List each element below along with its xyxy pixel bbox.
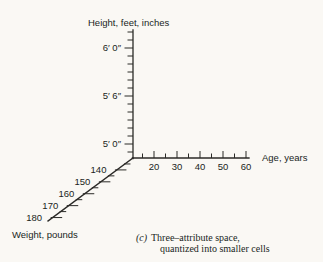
height-axis-title: Height, feet, inches bbox=[88, 17, 170, 28]
age-tick-label: 30 bbox=[172, 161, 183, 172]
weight-tick-label: 170 bbox=[42, 200, 58, 211]
weight-tick-label: 160 bbox=[58, 188, 74, 199]
age-tick-label: 50 bbox=[218, 161, 229, 172]
age-tick-label: 60 bbox=[241, 161, 252, 172]
age-axis-title: Age, years bbox=[262, 152, 308, 163]
weight-tick-label: 150 bbox=[75, 176, 91, 187]
age-tick-label: 40 bbox=[195, 161, 206, 172]
axis-tick-labels: 6′ 0″5′ 6″5′ 0″2030405060140150160170180 bbox=[26, 42, 251, 223]
height-tick-label: 5′ 0″ bbox=[103, 138, 122, 149]
axis-ticks bbox=[51, 32, 246, 218]
weight-axis-title: Weight, pounds bbox=[12, 229, 78, 240]
age-tick-label: 20 bbox=[149, 161, 160, 172]
height-tick-label: 6′ 0″ bbox=[103, 42, 122, 53]
height-tick-label: 5′ 6″ bbox=[103, 90, 122, 101]
weight-tick-label: 140 bbox=[91, 164, 107, 175]
caption-line2: quantized into smaller cells bbox=[160, 243, 270, 254]
figure-canvas: 6′ 0″5′ 6″5′ 0″2030405060140150160170180… bbox=[0, 0, 323, 262]
caption-line1: Three–attribute space, bbox=[151, 232, 240, 243]
weight-tick-label: 180 bbox=[26, 212, 42, 223]
caption-label: (c) bbox=[136, 232, 148, 244]
three-attribute-space-figure: 6′ 0″5′ 6″5′ 0″2030405060140150160170180… bbox=[0, 0, 323, 262]
